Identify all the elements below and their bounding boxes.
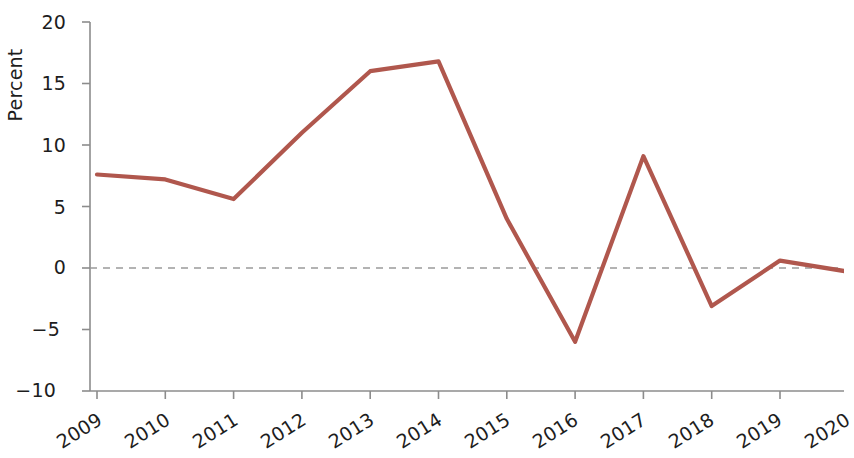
x-tick-marks (97, 391, 844, 399)
axis-lines (90, 22, 844, 391)
data-series-line (97, 61, 844, 341)
y-tick-marks (82, 22, 90, 391)
